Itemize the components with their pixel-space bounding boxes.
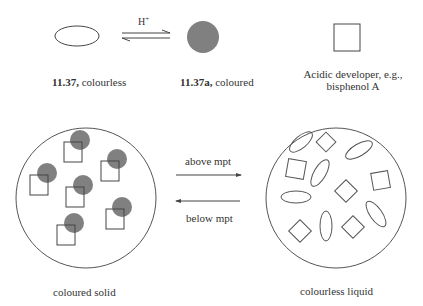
colourless-liquid-circle xyxy=(266,128,406,268)
diagram-canvas xyxy=(0,0,423,306)
coloured-dye-circle xyxy=(187,21,219,53)
coloured-solid-caption: coloured solid xyxy=(53,286,116,298)
leuco-dye-caption: 11.37, colourless xyxy=(52,76,126,88)
arrow-label-h-plus: H+ xyxy=(138,15,149,27)
above-mpt-label: above mpt xyxy=(185,155,231,167)
colourless-liquid-caption: colourless liquid xyxy=(300,285,373,297)
coloured-solid-circle xyxy=(16,128,156,268)
leuco-dye-ellipse xyxy=(55,26,99,46)
below-mpt-label: below mpt xyxy=(186,212,233,224)
developer-square xyxy=(334,24,360,51)
equilibrium-arrow xyxy=(122,30,170,41)
coloured-dye-caption: 11.37a, coloured xyxy=(180,76,254,88)
developer-caption: Acidic developer, e.g., bisphenol A xyxy=(303,68,403,92)
